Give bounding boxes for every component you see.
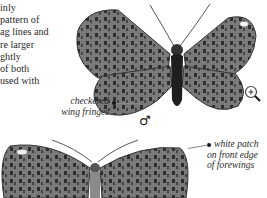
magnify-zoom-icon[interactable]	[244, 85, 262, 103]
callout-checkered-fringes: checkered wing fringes	[57, 96, 109, 117]
leader-line	[116, 103, 140, 104]
male-symbol: ♂	[139, 113, 151, 128]
female-butterfly-image	[0, 138, 200, 198]
callout-white-patch: white patch on front edge of forewings	[207, 139, 259, 171]
